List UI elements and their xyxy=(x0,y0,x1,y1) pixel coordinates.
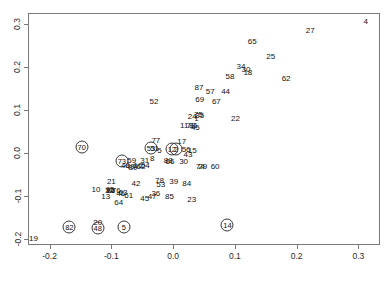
data-point-label: 5 xyxy=(157,147,161,155)
scatter-plot-figure: -0.2-0.10.00.10.20.3-0.2-0.10.00.10.20.3… xyxy=(0,0,392,284)
data-point-circled: 48 xyxy=(91,221,104,234)
y-axis-tick xyxy=(24,24,28,25)
data-point-label: 18 xyxy=(243,69,252,77)
data-point-label: 85 xyxy=(165,193,174,201)
data-point-label: 45 xyxy=(140,195,149,203)
data-point-label: 65 xyxy=(248,38,257,46)
y-axis-tick-label: -0.1 xyxy=(13,188,23,203)
data-point-label: 69 xyxy=(195,96,204,104)
data-point-label: 45 xyxy=(191,124,200,132)
data-point-label: 10 xyxy=(91,186,100,194)
data-point-label: 87 xyxy=(195,84,204,92)
y-axis-tick-label: 0.3 xyxy=(12,18,22,30)
y-axis-tick xyxy=(24,110,28,111)
y-axis-tick-label: 0.0 xyxy=(12,147,22,159)
data-point-label: 13 xyxy=(101,193,110,201)
data-point-label: 57 xyxy=(206,88,215,96)
data-point-label: 30 xyxy=(179,158,188,166)
data-point-label: 53 xyxy=(156,181,165,189)
x-axis-tick-label: 0.2 xyxy=(291,251,303,261)
y-axis-tick xyxy=(24,67,28,68)
data-point-label: 67 xyxy=(212,98,221,106)
data-point-label: 44 xyxy=(221,88,230,96)
data-point-label: 25 xyxy=(266,53,275,61)
y-axis-tick-label: -0.2 xyxy=(13,231,23,246)
y-axis-tick xyxy=(24,196,28,197)
x-axis-tick-label: 0.1 xyxy=(229,251,241,261)
data-point-label: 27 xyxy=(306,27,315,35)
y-axis-tick-label: 0.2 xyxy=(12,61,22,73)
data-point-label: 29 xyxy=(198,163,207,171)
x-axis-tick-label: 0.0 xyxy=(167,251,179,261)
x-axis-tick xyxy=(297,245,298,249)
data-point-label: 60 xyxy=(211,163,220,171)
x-axis-tick-label: -0.2 xyxy=(42,251,57,261)
data-point-label: 19 xyxy=(29,235,38,243)
data-point-label: 84 xyxy=(182,180,191,188)
data-point-label: 39 xyxy=(169,178,178,186)
data-point-label: 23 xyxy=(187,196,196,204)
data-point-label: 64 xyxy=(114,199,123,207)
y-axis-tick xyxy=(24,239,28,240)
data-point-label: 66 xyxy=(166,158,175,166)
data-point-label: 8 xyxy=(150,155,154,163)
x-axis-tick-label: -0.1 xyxy=(104,251,119,261)
data-point-circled: 14 xyxy=(221,218,234,231)
data-point-label: 61 xyxy=(124,192,133,200)
data-point-circled: 82 xyxy=(63,220,76,233)
data-point-label: 54 xyxy=(141,162,150,170)
data-point-label: 4 xyxy=(364,18,368,26)
data-point-circled: 70 xyxy=(75,141,88,154)
x-axis-tick-label: 0.3 xyxy=(352,251,364,261)
data-point-label: 22 xyxy=(231,115,240,123)
data-point-label: 58 xyxy=(225,73,234,81)
x-axis-tick xyxy=(50,245,51,249)
x-axis-tick xyxy=(358,245,359,249)
x-axis-tick xyxy=(173,245,174,249)
data-point-label: 52 xyxy=(150,98,159,106)
plot-frame xyxy=(28,13,380,245)
data-point-circled: 5 xyxy=(117,220,130,233)
y-axis-tick-label: 0.1 xyxy=(12,104,22,116)
x-axis-tick xyxy=(235,245,236,249)
data-point-label: 62 xyxy=(282,75,291,83)
x-axis-tick xyxy=(111,245,112,249)
y-axis-tick xyxy=(24,153,28,154)
data-point-label: 42 xyxy=(132,180,141,188)
